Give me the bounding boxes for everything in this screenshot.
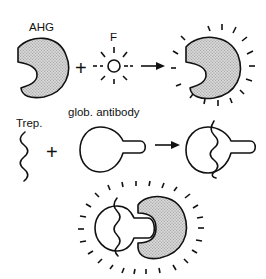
treponema-label: Trep. [16, 117, 42, 129]
treponema-spiral [20, 132, 28, 181]
treponema-antibody-complex [186, 121, 255, 178]
ahg-molecule [18, 38, 69, 97]
fluorescent-ahg [171, 24, 255, 106]
globulin-antibody-label: glob. antibody [68, 106, 140, 118]
arrow-icon-2 [155, 141, 180, 149]
fluorescein-label: F [110, 31, 117, 43]
ahg-molecule-fluorescent [186, 37, 240, 98]
fluorescent-complex [78, 181, 204, 274]
plus-sign-1: + [75, 57, 87, 79]
globulin-antibody [80, 127, 145, 172]
ahg-label: AHG [29, 21, 54, 33]
plus-sign-2: + [46, 141, 58, 163]
fluorescent-antibody-diagram: AHG + F [0, 0, 266, 279]
fluorescein-sun-icon [93, 47, 133, 84]
arrow-icon-1 [141, 62, 165, 70]
